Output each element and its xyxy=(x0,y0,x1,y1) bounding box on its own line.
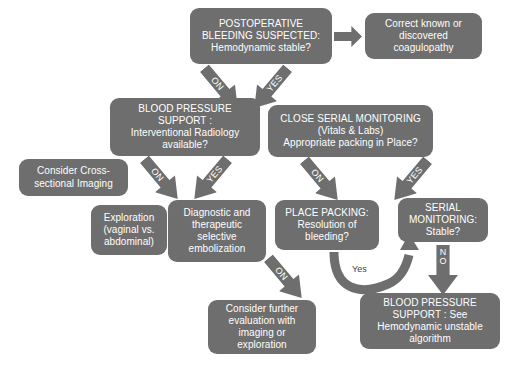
node-exploration[interactable]: Exploration (vaginal vs. abdominal) xyxy=(91,205,167,255)
node-place-packing[interactable]: PLACE PACKING: Resolution of bleeding? xyxy=(275,200,379,250)
node-label: CLOSE SERIAL MONITORING (Vitals & Labs) … xyxy=(280,113,421,150)
node-serial-monitoring-stable[interactable]: SERIAL MONITORING: Stable? xyxy=(398,198,488,242)
arrow-n8-no: NO xyxy=(258,250,311,307)
node-label: PLACE PACKING: Resolution of bleeding? xyxy=(285,207,368,244)
node-blood-pressure-support-unstable[interactable]: BLOOD PRESSURE SUPPORT : See Hemodynamic… xyxy=(360,293,500,349)
node-label: Correct known or discovered coagulopathy xyxy=(385,18,462,55)
arrow-label-yes-curved: Yes xyxy=(352,264,367,274)
node-postoperative-bleeding-suspected[interactable]: POSTOPERATIVE BLEEDING SUSPECTED: Hemody… xyxy=(190,8,332,64)
node-consider-further-evaluation[interactable]: Consider further evaluation with imaging… xyxy=(208,300,316,354)
flowchart-diagram: POSTOPERATIVE BLEEDING SUSPECTED: Hemody… xyxy=(0,0,514,366)
node-label: Consider Cross- sectional Imaging xyxy=(34,165,113,189)
node-label: Diagnostic and therapeutic selective emb… xyxy=(184,207,251,256)
node-label: BLOOD PRESSURE SUPPORT : Interventional … xyxy=(131,103,240,152)
node-blood-pressure-support-ir[interactable]: BLOOD PRESSURE SUPPORT : Interventional … xyxy=(110,98,260,156)
arrow-n3-no: NO xyxy=(134,151,187,208)
node-label: BLOOD PRESSURE SUPPORT : See Hemodynamic… xyxy=(377,297,483,346)
arrow-label-no: N O xyxy=(428,248,458,266)
node-consider-cross-sectional-imaging[interactable]: Consider Cross- sectional Imaging xyxy=(19,159,128,196)
node-label: Exploration (vaginal vs. abdominal) xyxy=(103,212,154,249)
node-close-serial-monitoring[interactable]: CLOSE SERIAL MONITORING (Vitals & Labs) … xyxy=(268,105,433,157)
node-selective-embolization[interactable]: Diagnostic and therapeutic selective emb… xyxy=(168,200,266,262)
arrow-n3-yes: YES xyxy=(184,151,237,208)
node-correct-coagulopathy[interactable]: Correct known or discovered coagulopathy xyxy=(365,13,482,59)
node-label: POSTOPERATIVE BLEEDING SUSPECTED: Hemody… xyxy=(202,18,320,55)
arrow-label-no-line2: O xyxy=(439,256,446,266)
arrow-to-coagulopathy xyxy=(334,26,362,47)
node-label: Consider further evaluation with imaging… xyxy=(226,303,299,352)
node-label: SERIAL MONITORING: Stable? xyxy=(409,202,477,239)
